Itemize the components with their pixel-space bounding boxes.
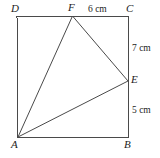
- vertex-label-E: E: [131, 74, 138, 85]
- segment-A-F: [18, 16, 73, 137]
- dimension-label-EB: 5 cm: [132, 105, 151, 115]
- dimension-label-CE: 7 cm: [132, 43, 151, 53]
- segment-F-E: [73, 16, 129, 81]
- geometry-figure: D F C E B A 6 cm 7 cm 5 cm: [0, 0, 160, 158]
- dimension-label-FC: 6 cm: [88, 4, 107, 14]
- segment-A-E: [18, 81, 128, 137]
- vertex-label-F: F: [68, 2, 75, 13]
- square-outline: [17, 16, 128, 137]
- vertex-label-D: D: [11, 3, 19, 14]
- vertex-label-A: A: [11, 139, 18, 150]
- vertex-label-B: B: [124, 139, 131, 150]
- vertex-label-C: C: [126, 3, 133, 14]
